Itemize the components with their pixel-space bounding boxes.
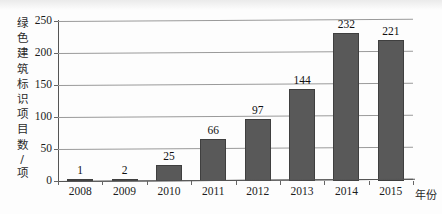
- gridline: [58, 83, 413, 86]
- bar-2013: [289, 89, 315, 181]
- bar-value-label-2010: 25: [147, 150, 191, 162]
- x-axis-tick-label-2014: 2014: [324, 185, 368, 197]
- y-axis-tick-label: 50: [26, 142, 52, 154]
- y-axis-tick-label: 100: [26, 110, 52, 122]
- x-axis-tick-label-2012: 2012: [236, 185, 280, 197]
- bar-value-label-2015: 221: [369, 25, 413, 37]
- bar-value-label-2011: 66: [191, 124, 235, 136]
- x-axis-tick-label-2013: 2013: [280, 185, 324, 197]
- x-axis-tick-label-2015: 2015: [369, 185, 413, 197]
- y-axis-tick: [54, 21, 58, 22]
- y-axis-tick: [54, 53, 58, 54]
- bar-2012: [245, 119, 271, 181]
- y-axis-tick-label: 250: [26, 14, 52, 26]
- bar-value-label-2009: 2: [103, 164, 147, 176]
- y-axis-tick: [54, 85, 58, 86]
- bar-value-label-2013: 144: [280, 74, 324, 86]
- bar-2011: [200, 139, 226, 181]
- y-axis-tick-labels: 050100150200250: [24, 0, 52, 214]
- x-axis-tick: [413, 181, 414, 185]
- x-axis-tick-label-2009: 2009: [103, 185, 147, 197]
- x-axis-tick-label-2011: 2011: [191, 185, 235, 197]
- gridline: [58, 147, 413, 150]
- x-axis-tick-label-2010: 2010: [147, 185, 191, 197]
- y-axis-tick-label: 0: [26, 174, 52, 186]
- bar-value-label-2012: 97: [236, 104, 280, 116]
- y-axis-tick: [54, 149, 58, 150]
- y-axis-tick-label: 150: [26, 78, 52, 90]
- bar-2010: [156, 165, 182, 181]
- bar-value-label-2008: 1: [58, 164, 102, 176]
- x-axis-title: 年份: [415, 186, 437, 202]
- bar-2014: [333, 33, 359, 181]
- y-axis-tick-label: 200: [26, 46, 52, 58]
- bar-value-label-2014: 232: [324, 18, 368, 30]
- scan-artifact: [0, 0, 442, 10]
- x-axis-tick-label-2008: 2008: [58, 185, 102, 197]
- bar-2015: [378, 40, 404, 181]
- gridline: [58, 51, 413, 54]
- y-axis-tick: [54, 117, 58, 118]
- bar-chart: 绿 色 建 筑 标 识 项 目 数 / 项 050100150200250 年份…: [0, 0, 442, 214]
- plot-area: [58, 21, 413, 181]
